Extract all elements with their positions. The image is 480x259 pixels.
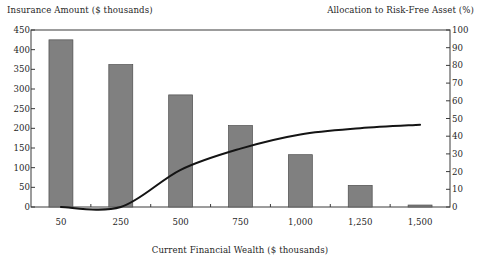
plot-area [0,0,480,259]
right-axis-ticks [446,30,450,207]
left-axis-ticks [31,30,35,207]
chart-figure: Insurance Amount ($ thousands) Allocatio… [0,0,480,259]
bar-series [49,40,432,207]
